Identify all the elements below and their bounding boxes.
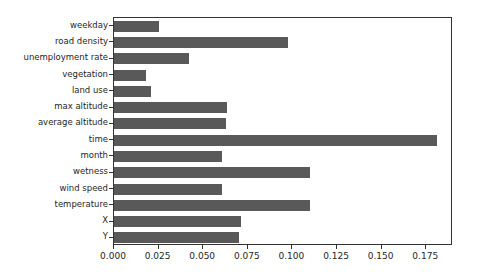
plot-area bbox=[113, 17, 452, 245]
x-axis-tick-label: 0.125 bbox=[323, 251, 349, 261]
y-axis-tick-mark bbox=[109, 123, 113, 124]
y-axis-tick-label: unemployment rate bbox=[0, 53, 108, 62]
y-axis-tick-label: wetness bbox=[0, 167, 108, 176]
y-axis-tick-label: Y bbox=[0, 232, 108, 241]
x-axis-tick-label: 0.175 bbox=[412, 251, 438, 261]
y-axis-tick-label: weekday bbox=[0, 21, 108, 30]
x-axis-tick-mark bbox=[202, 245, 203, 249]
y-axis-tick-mark bbox=[109, 90, 113, 91]
x-axis-tick-label: 0.050 bbox=[189, 251, 215, 261]
x-axis-tick-label: 0.075 bbox=[234, 251, 260, 261]
y-axis-tick-mark bbox=[109, 172, 113, 173]
y-axis-tick-mark bbox=[109, 25, 113, 26]
x-axis-tick-mark bbox=[381, 245, 382, 249]
y-axis-tick-mark bbox=[109, 139, 113, 140]
x-axis-tick-label: 0.000 bbox=[100, 251, 126, 261]
y-axis-tick-mark bbox=[109, 221, 113, 222]
y-axis-tick-label: wind speed bbox=[0, 184, 108, 193]
x-axis-tick-mark bbox=[113, 245, 114, 249]
figure: weekdayroad densityunemployment ratevege… bbox=[0, 0, 479, 279]
y-axis-tick-mark bbox=[109, 107, 113, 108]
y-axis-tick-labels: weekdayroad densityunemployment ratevege… bbox=[0, 17, 108, 245]
y-axis-tick-label: temperature bbox=[0, 200, 108, 209]
y-axis-tick-mark bbox=[109, 188, 113, 189]
y-axis-tick-mark bbox=[109, 74, 113, 75]
y-axis-tick-mark bbox=[109, 58, 113, 59]
x-axis-tick-mark bbox=[291, 245, 292, 249]
x-axis-tick-mark bbox=[247, 245, 248, 249]
y-axis-tick-label: land use bbox=[0, 86, 108, 95]
y-axis-tick-mark bbox=[109, 41, 113, 42]
y-axis-tick-label: time bbox=[0, 135, 108, 144]
y-axis-tick-mark bbox=[109, 204, 113, 205]
bar bbox=[114, 118, 226, 129]
x-axis-ticks: 0.0000.0250.0500.0750.1000.1250.1500.175 bbox=[113, 245, 452, 279]
y-axis-tick-label: road density bbox=[0, 37, 108, 46]
bar bbox=[114, 37, 288, 48]
x-axis-tick-label: 0.025 bbox=[145, 251, 171, 261]
y-axis-tick-label: average altitude bbox=[0, 118, 108, 127]
x-axis-tick-mark bbox=[336, 245, 337, 249]
y-axis-tick-label: X bbox=[0, 216, 108, 225]
y-axis-tick-label: max altitude bbox=[0, 102, 108, 111]
x-axis-tick-mark bbox=[425, 245, 426, 249]
bar bbox=[114, 53, 189, 64]
y-axis-tick-label: vegetation bbox=[0, 70, 108, 79]
x-axis-tick-label: 0.100 bbox=[279, 251, 305, 261]
y-axis-tick-mark bbox=[109, 237, 113, 238]
bar bbox=[114, 232, 239, 243]
bar bbox=[114, 21, 159, 32]
bar bbox=[114, 216, 241, 227]
bar bbox=[114, 151, 222, 162]
y-axis-tick-mark bbox=[109, 155, 113, 156]
bar bbox=[114, 200, 310, 211]
bar bbox=[114, 70, 146, 81]
bar bbox=[114, 184, 222, 195]
bars-layer bbox=[114, 18, 451, 244]
y-axis-tick-label: month bbox=[0, 151, 108, 160]
x-axis-tick-mark bbox=[158, 245, 159, 249]
bar bbox=[114, 102, 227, 113]
x-axis-tick-label: 0.150 bbox=[368, 251, 394, 261]
bar bbox=[114, 86, 151, 97]
bar bbox=[114, 135, 437, 146]
bar bbox=[114, 167, 310, 178]
